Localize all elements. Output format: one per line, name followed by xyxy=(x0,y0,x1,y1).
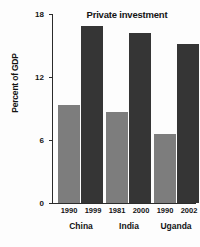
bar-india-1981[interactable] xyxy=(106,112,128,203)
x-tick-label-uganda-2002: 2002 xyxy=(173,206,200,215)
y-tick-mark-0: 0 xyxy=(49,203,52,204)
bar-group-uganda xyxy=(154,14,200,203)
bar-india-2000[interactable] xyxy=(129,33,151,203)
y-tick-mark-18: 18 xyxy=(49,14,52,15)
bar-uganda-1990[interactable] xyxy=(154,134,176,203)
y-tick-label-6: 6 xyxy=(40,136,44,145)
y-tick-label-18: 18 xyxy=(35,10,44,19)
y-tick-mark-6: 6 xyxy=(49,140,52,141)
x-group-label-uganda: Uganda xyxy=(153,221,199,231)
bar-group-india xyxy=(106,14,152,203)
bar-china-1999[interactable] xyxy=(81,26,103,203)
y-axis-line xyxy=(52,14,53,203)
bar-uganda-2002[interactable] xyxy=(177,44,199,203)
x-group-label-india: India xyxy=(106,221,152,231)
y-tick-label-0: 0 xyxy=(40,199,44,208)
plot-area: 0 6 12 18 1990 1999 1981 2000 1 xyxy=(52,14,196,203)
y-tick-mark-12: 12 xyxy=(49,77,52,78)
x-axis-line xyxy=(52,203,196,204)
y-tick-label-12: 12 xyxy=(35,73,44,82)
private-investment-bar-chart: Private investment Percent of GDP 0 6 12… xyxy=(0,0,200,247)
bar-china-1990[interactable] xyxy=(58,105,80,203)
y-axis-title: Percent of GDP xyxy=(10,38,20,128)
x-group-label-china: China xyxy=(58,221,104,231)
bar-group-china xyxy=(58,14,104,203)
